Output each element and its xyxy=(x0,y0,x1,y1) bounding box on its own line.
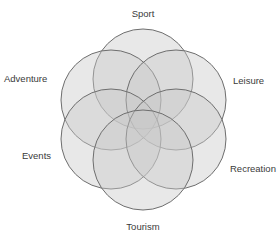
label-adventure: Adventure xyxy=(4,73,47,84)
venn-diagram: Sport Adventure Leisure Events Recreatio… xyxy=(0,0,279,236)
label-recreation: Recreation xyxy=(230,163,276,174)
label-events: Events xyxy=(22,150,51,161)
circle-tourism xyxy=(93,110,193,210)
label-tourism: Tourism xyxy=(126,221,159,232)
label-leisure: Leisure xyxy=(233,75,264,86)
circles-group xyxy=(61,29,226,210)
label-sport: Sport xyxy=(132,8,155,19)
